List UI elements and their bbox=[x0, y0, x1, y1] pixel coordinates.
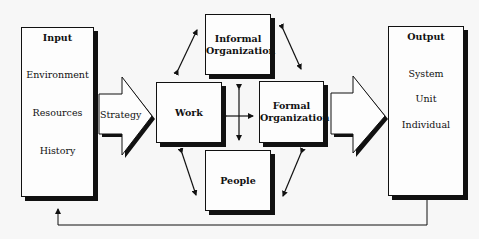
people-box: People bbox=[205, 150, 271, 211]
informal-organization-label: Informal Organization bbox=[206, 33, 270, 57]
informal-formal-arrow-icon bbox=[283, 29, 301, 69]
output-arrow-icon bbox=[331, 76, 388, 157]
input-title: Input bbox=[22, 32, 93, 43]
people-formal-arrow-icon bbox=[283, 153, 301, 196]
formal-label-line2: Organization bbox=[260, 112, 323, 124]
output-box: Output System Unit Individual bbox=[388, 26, 464, 196]
input-item-environment: Environment bbox=[22, 69, 93, 80]
formal-organization-box: Formal Organization bbox=[259, 81, 324, 143]
work-box: Work bbox=[156, 82, 222, 143]
congruence-model-diagram: Input Environment Resources History Stra… bbox=[0, 0, 479, 239]
output-title: Output bbox=[389, 31, 463, 42]
input-box: Input Environment Resources History bbox=[21, 27, 94, 197]
formal-label-line1: Formal bbox=[260, 100, 323, 112]
output-item-system: System bbox=[389, 68, 463, 79]
work-informal-arrow-icon bbox=[178, 30, 197, 70]
output-item-individual: Individual bbox=[389, 119, 463, 130]
output-item-unit: Unit bbox=[389, 93, 463, 104]
informal-label-line1: Informal bbox=[206, 33, 270, 45]
work-people-arrow-icon bbox=[182, 153, 196, 195]
formal-organization-label: Formal Organization bbox=[260, 100, 323, 124]
people-label: People bbox=[206, 175, 270, 187]
input-item-resources: Resources bbox=[22, 107, 93, 118]
informal-label-line2: Organization bbox=[206, 45, 270, 57]
strategy-label: Strategy bbox=[100, 109, 152, 120]
work-label: Work bbox=[157, 107, 221, 119]
informal-organization-box: Informal Organization bbox=[205, 14, 271, 75]
input-item-history: History bbox=[22, 145, 93, 156]
